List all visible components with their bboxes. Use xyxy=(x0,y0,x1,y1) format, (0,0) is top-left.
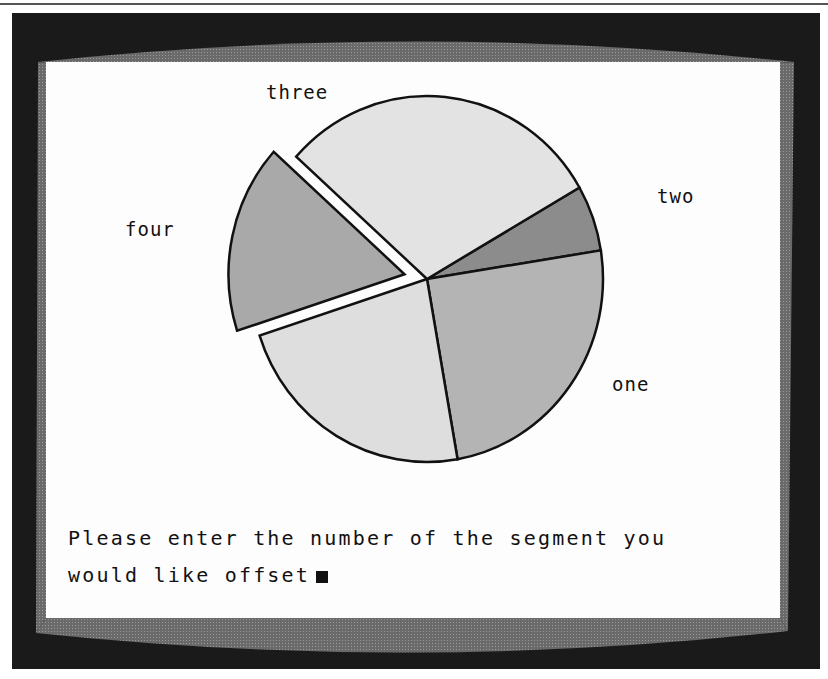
prompt-line-1: Please enter the number of the segment y… xyxy=(68,526,666,550)
pie-label-three: three xyxy=(266,81,328,103)
pie-label-four: four xyxy=(125,218,175,240)
pie-label-one: one xyxy=(612,373,649,395)
pie-label-two: two xyxy=(657,185,694,207)
prompt-line-2[interactable]: would like offset xyxy=(68,563,328,587)
prompt-line-2-text: would like offset xyxy=(68,563,310,587)
block-cursor-icon[interactable] xyxy=(316,571,328,583)
